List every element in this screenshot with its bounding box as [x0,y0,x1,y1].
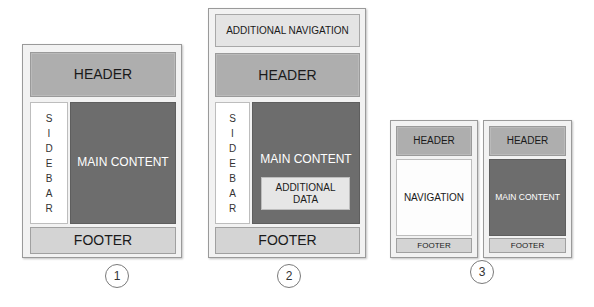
layout-3-screen-1-header: HEADER [396,126,472,156]
layout-2-additional-navigation: ADDITIONAL NAVIGATION [215,14,360,47]
layout-2-footer: FOOTER [215,227,360,254]
layout-1-footer-label: FOOTER [74,232,132,248]
layout-1-main-content-label: MAIN CONTENT [77,156,168,170]
sidebar-letter: A [229,186,236,201]
sidebar-letter: I [48,126,51,141]
layout-2-additional-navigation-label: ADDITIONAL NAVIGATION [226,25,349,37]
sidebar-letter: E [46,156,53,171]
layout-3-screen-1-header-label: HEADER [413,135,455,147]
sidebar-letter: I [231,126,234,141]
layout-2-footer-label: FOOTER [258,232,316,248]
sidebar-letter: D [45,141,52,156]
layout-2-header: HEADER [215,53,360,97]
layout-3-number-badge: 3 [470,260,494,284]
sidebar-letter: E [229,156,236,171]
sidebar-letter: D [229,141,236,156]
layout-1-number-badge: 1 [105,264,129,288]
layout-2-main-content-label-wrap: MAIN CONTENT [253,151,359,169]
layout-3-screen-1-navigation-label: NAVIGATION [404,192,464,204]
layout-2-header-label: HEADER [258,67,316,83]
layout-2-additional-data-line2: DATA [293,194,318,206]
sidebar-letter: R [45,201,52,216]
sidebar-letter: R [229,201,236,216]
layout-3-screen-1-navigation: NAVIGATION [396,159,472,236]
sidebar-letter: B [229,171,236,186]
layout-1-sidebar: S I D E B A R [30,102,68,224]
layout-1-header-label: HEADER [74,66,132,82]
layout-1-main-content: MAIN CONTENT [70,102,176,224]
layout-3-screen-2-footer: FOOTER [489,238,566,253]
sidebar-letter: A [46,186,53,201]
layout-1-header: HEADER [30,52,176,97]
layout-3-screen-2-main-content-label: MAIN CONTENT [495,193,560,203]
layout-2-sidebar: S I D E B A R [215,102,250,224]
layout-2-number-badge: 2 [277,264,301,288]
layout-3-screen-1-footer-label: FOOTER [417,241,450,250]
layout-3-screen-1-footer: FOOTER [396,238,472,253]
layout-2-additional-data-line1: ADDITIONAL [275,182,335,194]
layout-2-main-content-label: MAIN CONTENT [260,153,351,167]
sidebar-letter: S [46,111,53,126]
sidebar-letter: S [229,111,236,126]
layout-3-screen-2-header: HEADER [489,126,566,156]
sidebar-letter: B [46,171,53,186]
layout-2-additional-data: ADDITIONAL DATA [261,177,350,210]
layout-3-screen-2-header-label: HEADER [507,135,549,147]
layout-1-footer: FOOTER [30,227,176,254]
layout-3-screen-2-main-content: MAIN CONTENT [489,159,566,236]
layout-3-screen-2-footer-label: FOOTER [511,241,544,250]
